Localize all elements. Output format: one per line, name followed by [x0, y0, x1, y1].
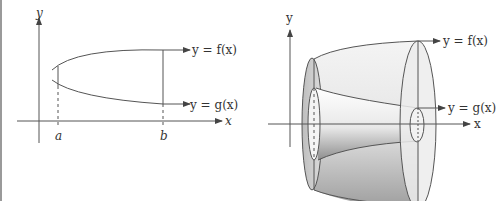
bound-b-label: b [160, 129, 168, 143]
x-axis-label: x [225, 114, 232, 128]
curve-f-label: y = f(x) [191, 43, 237, 57]
right-inner-disc [410, 108, 424, 142]
inner-surface-label: y = g(x) [447, 101, 496, 115]
solid-of-revolution-figure: y x y = f(x) y = g(x) [268, 11, 496, 201]
region-between-curves-figure: x y y = f(x) y = g(x) a b [17, 6, 238, 143]
diagram-canvas: x y y = f(x) y = g(x) a b y [0, 0, 499, 201]
bound-a-label: a [55, 129, 62, 143]
curve-f [52, 50, 190, 70]
x-axis-3d-label: x [474, 117, 481, 131]
curve-g-label: y = g(x) [189, 98, 238, 112]
y-axis-label: y [35, 6, 43, 20]
curve-g [52, 80, 190, 104]
y-axis-3d-label: y [285, 11, 293, 25]
outer-surface-label: y = f(x) [442, 34, 488, 48]
